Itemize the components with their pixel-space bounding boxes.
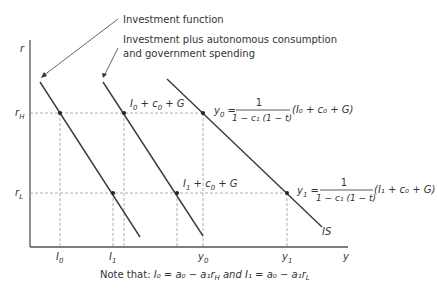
tick-I0: I0	[56, 251, 64, 265]
rH-label: rH	[15, 107, 25, 121]
tick-I1: I1	[109, 251, 116, 265]
svg-text:1 − c₁ (1 − t): 1 − c₁ (1 − t)	[316, 193, 376, 203]
tick-y1: y1	[281, 251, 292, 265]
svg-text:1: 1	[256, 97, 262, 108]
pointer-investment-plus	[104, 48, 118, 76]
is-curve-diagram: Investment function Investment plus auto…	[0, 0, 437, 294]
label-high-sum: I0 + c0 + G	[130, 98, 185, 112]
svg-text:1: 1	[341, 177, 347, 188]
vertical-guides	[60, 113, 287, 247]
x-axis-label: y	[342, 251, 350, 262]
equation-y0: y0 = 1 1 − c₁ (1 − t) (I₀ + c₀ + G)	[213, 97, 354, 123]
svg-text:(I₁ + c₀ + G): (I₁ + c₀ + G)	[374, 184, 436, 195]
svg-text:1 − c₁ (1 − t): 1 − c₁ (1 − t)	[232, 113, 292, 123]
investment-function-line	[40, 82, 140, 237]
tick-y0: y0	[197, 251, 209, 265]
label-is: IS	[322, 226, 332, 237]
pointer-investment-function	[43, 19, 118, 76]
arrowhead-icon	[102, 73, 107, 78]
rL-label: rL	[15, 187, 23, 201]
label-investment-plus-1: Investment plus autonomous consumption	[123, 34, 337, 45]
equation-y1: y1 = 1 1 − c₁ (1 − t) (I₁ + c₀ + G)	[296, 177, 436, 203]
arrowhead-icon	[41, 72, 47, 78]
intersection-points	[58, 111, 289, 195]
y-axis-label: r	[20, 43, 25, 54]
label-investment-plus-2: and government spending	[123, 48, 255, 59]
is-curve	[167, 79, 322, 227]
label-investment-function: Investment function	[123, 14, 224, 25]
label-low-sum: I1 + c0 + G	[183, 178, 238, 192]
note: Note that: I₀ = a₀ − a₁rH and I₁ = a₀ − …	[100, 269, 310, 282]
svg-text:(I₀ + c₀ + G): (I₀ + c₀ + G)	[292, 104, 354, 115]
